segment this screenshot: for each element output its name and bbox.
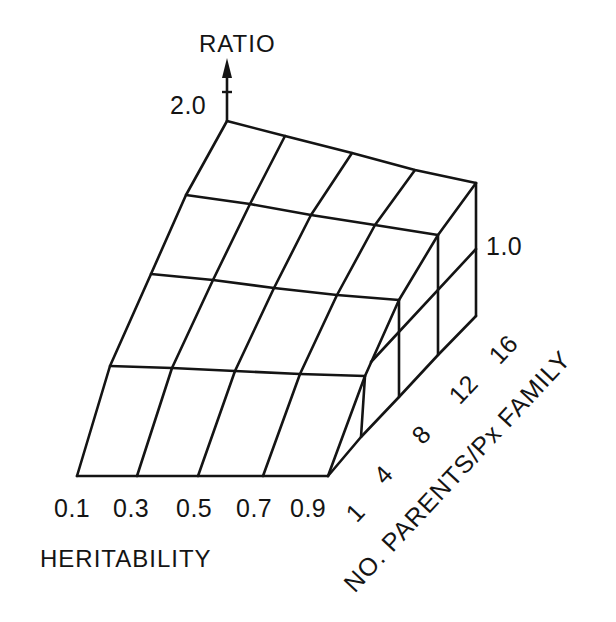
z-tick-1-0: 1.0 (486, 232, 522, 261)
wireframe-surface (0, 0, 616, 622)
h-tick-0-7: 0.7 (236, 494, 272, 523)
surface-column-line (137, 136, 285, 476)
surface-column-line (263, 170, 415, 476)
h-tick-0-3: 0.3 (113, 494, 149, 523)
arrow-up-icon (222, 58, 232, 78)
h-tick-0-1: 0.1 (54, 494, 90, 523)
surface-plot-figure: RATIO 2.0 1.0 0.1 0.3 0.5 0.7 0.9 HERITA… (0, 0, 616, 622)
h-tick-0-9: 0.9 (290, 494, 326, 523)
z-axis-title: RATIO (199, 30, 276, 58)
x-axis-title: HERITABILITY (40, 545, 212, 573)
h-tick-0-5: 0.5 (176, 494, 212, 523)
ratio-one-line (371, 249, 476, 362)
z-tick-2-0: 2.0 (170, 91, 206, 120)
